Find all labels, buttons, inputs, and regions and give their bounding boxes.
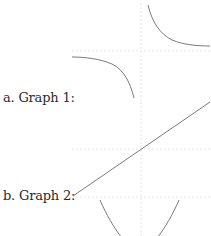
graph-1-hyperbola xyxy=(72,3,210,104)
graph-3-parabola xyxy=(72,197,210,236)
graphs-figure xyxy=(0,0,211,236)
graph-2-line xyxy=(72,102,210,196)
graph-1-branch-lower-left xyxy=(72,57,134,98)
graph-3-curve xyxy=(100,200,122,236)
graph-3-curve-right xyxy=(157,200,179,236)
graph-1-branch-upper-right xyxy=(148,5,210,46)
